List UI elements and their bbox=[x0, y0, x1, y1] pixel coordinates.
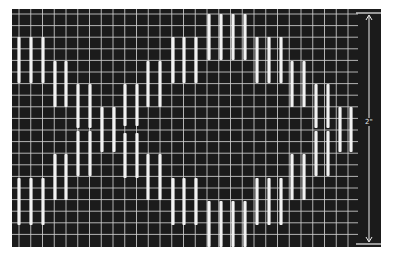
stitch bbox=[326, 84, 329, 128]
stitch bbox=[302, 61, 305, 107]
scale-label: 2" bbox=[364, 118, 374, 126]
stitch bbox=[123, 133, 126, 178]
stitch bbox=[338, 107, 341, 152]
stitch bbox=[171, 37, 174, 83]
stitch-pattern-artwork bbox=[0, 0, 394, 256]
stitch bbox=[194, 178, 197, 225]
stitch bbox=[171, 178, 174, 225]
stitch bbox=[17, 37, 20, 83]
stitch bbox=[29, 178, 32, 225]
stitch bbox=[326, 131, 329, 176]
stitch bbox=[158, 154, 161, 200]
stitch bbox=[41, 37, 44, 83]
stitch bbox=[123, 84, 126, 126]
stitch bbox=[182, 37, 185, 83]
stitch bbox=[76, 84, 79, 128]
stitch bbox=[194, 37, 197, 83]
stitch bbox=[182, 178, 185, 225]
stitch bbox=[53, 61, 56, 107]
stitch bbox=[349, 107, 352, 152]
stitch bbox=[231, 201, 234, 247]
stitch bbox=[279, 37, 282, 83]
stitch bbox=[53, 154, 56, 200]
stitch bbox=[267, 37, 270, 83]
stitch bbox=[88, 131, 91, 176]
stitch bbox=[219, 14, 222, 60]
stitch bbox=[17, 178, 20, 225]
stitch bbox=[158, 61, 161, 107]
stitch bbox=[64, 61, 67, 107]
stitch bbox=[243, 201, 246, 247]
stitch bbox=[267, 178, 270, 225]
stitch bbox=[219, 201, 222, 247]
stitch bbox=[112, 107, 115, 152]
stitch bbox=[279, 178, 282, 225]
stitch bbox=[64, 154, 67, 200]
stitch bbox=[314, 131, 317, 176]
stitch bbox=[290, 61, 293, 107]
stitch bbox=[290, 154, 293, 200]
stitch bbox=[41, 178, 44, 225]
stitch bbox=[302, 154, 305, 200]
stitch bbox=[88, 84, 91, 128]
stitch bbox=[207, 14, 210, 60]
stitch bbox=[76, 131, 79, 176]
stitch bbox=[207, 201, 210, 247]
stitch bbox=[314, 84, 317, 128]
stitch bbox=[231, 14, 234, 60]
stitch bbox=[243, 14, 246, 60]
stitch bbox=[255, 37, 258, 83]
stitch bbox=[255, 178, 258, 225]
stitch bbox=[135, 133, 138, 178]
stitch bbox=[146, 61, 149, 107]
stitch bbox=[135, 84, 138, 126]
stitch bbox=[29, 37, 32, 83]
stitch bbox=[146, 154, 149, 200]
stitch bbox=[100, 107, 103, 152]
